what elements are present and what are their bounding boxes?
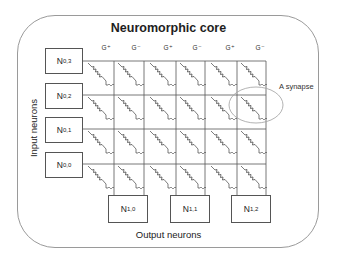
output-neurons-label: Output neurons bbox=[0, 229, 337, 240]
input-neuron-n00: N0,0 bbox=[45, 152, 83, 178]
input-neuron-n01: N0,1 bbox=[45, 117, 83, 143]
output-neuron-n10: N1,0 bbox=[108, 195, 148, 223]
synapse-annotation: A synapse bbox=[279, 82, 314, 91]
wordlines bbox=[82, 61, 266, 164]
input-neurons-label: Input neurons bbox=[28, 99, 39, 157]
input-neuron-n03: N0,3 bbox=[45, 48, 83, 74]
output-neuron-n12: N1,2 bbox=[231, 195, 271, 223]
synapses bbox=[88, 63, 267, 189]
output-neuron-n11: N1,1 bbox=[170, 195, 210, 223]
input-neuron-n02: N0,2 bbox=[45, 83, 83, 109]
